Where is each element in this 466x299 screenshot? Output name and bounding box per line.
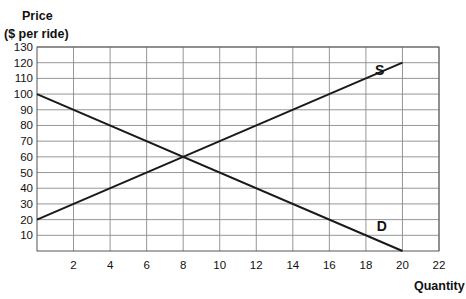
y-tick-label: 60 [20, 151, 33, 163]
y-tick-label: 30 [20, 198, 33, 210]
y-tick-label: 110 [15, 72, 33, 84]
x-tick-label: 4 [107, 259, 114, 271]
y-tick-labels: 102030405060708090100110120130 [14, 41, 33, 241]
x-tick-label: 18 [360, 259, 373, 271]
x-tick-label: 20 [396, 259, 409, 271]
x-tick-label: 6 [143, 259, 149, 271]
x-tick-label: 16 [323, 259, 336, 271]
x-tick-labels: 246810121416182022 [70, 259, 445, 271]
series-S-label: S [375, 62, 384, 78]
y-tick-label: 70 [20, 135, 33, 147]
supply-demand-chart: 102030405060708090100110120130 246810121… [0, 0, 466, 299]
x-tick-label: 12 [250, 259, 263, 271]
y-tick-label: 130 [14, 41, 33, 53]
y-tick-label: 90 [20, 104, 33, 116]
y-tick-label: 80 [20, 119, 33, 131]
y-axis-title-line2: ($ per ride) [4, 27, 69, 41]
y-tick-label: 100 [14, 88, 33, 100]
y-axis-title-line1: Price [22, 9, 53, 23]
y-tick-label: 120 [14, 57, 33, 69]
x-axis-title: Quantity [414, 279, 465, 293]
y-tick-label: 10 [20, 229, 33, 241]
x-tick-label: 2 [70, 259, 76, 271]
x-tick-label: 14 [286, 259, 299, 271]
y-tick-label: 40 [20, 182, 33, 194]
x-tick-label: 10 [213, 259, 226, 271]
y-tick-label: 50 [20, 167, 33, 179]
y-tick-label: 20 [20, 214, 33, 226]
x-tick-label: 22 [433, 259, 446, 271]
x-tick-label: 8 [180, 259, 186, 271]
series-D-label: D [377, 218, 387, 234]
